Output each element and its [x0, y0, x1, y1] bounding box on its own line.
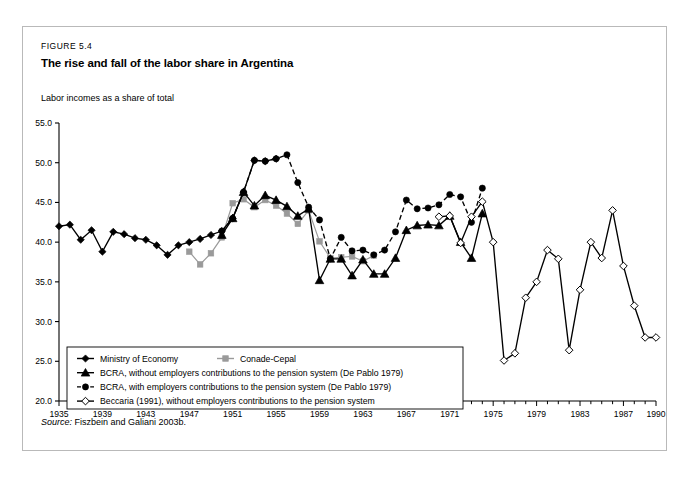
marker-circle-icon	[414, 206, 420, 212]
marker-triangle-icon	[348, 271, 357, 279]
marker-diamond-icon	[142, 236, 149, 243]
marker-diamond-icon	[110, 228, 117, 235]
marker-square-icon	[208, 250, 214, 256]
x-tick-label: 1975	[484, 409, 503, 419]
legend-item[interactable]: BCRA, without employers contributions to…	[77, 368, 403, 378]
series-1	[55, 155, 279, 258]
x-tick-label: 1971	[440, 409, 459, 419]
marker-square-icon	[284, 211, 290, 217]
legend-item[interactable]: BCRA, with employers contributions to th…	[77, 382, 391, 392]
marker-diamond-icon	[186, 239, 193, 246]
legend-label: Ministry of Economy	[100, 354, 179, 364]
marker-diamond-icon	[207, 231, 214, 238]
marker-circle-icon	[479, 185, 485, 191]
marker-diamond-open-icon	[565, 346, 573, 354]
legend-label: Conade-Cepal	[240, 354, 296, 364]
figure-frame: FIGURE 5.4 The rise and fall of the labo…	[22, 26, 667, 451]
series-5	[435, 198, 660, 364]
marker-diamond-open-icon	[609, 207, 617, 215]
chart-plot-area: 20.025.030.035.040.045.050.055.019351939…	[23, 27, 668, 452]
marker-circle-icon	[447, 191, 453, 197]
marker-diamond-icon	[131, 235, 138, 242]
marker-square-icon	[197, 262, 203, 268]
marker-diamond-icon	[197, 235, 204, 242]
marker-square-icon	[230, 200, 236, 206]
marker-circle-icon	[262, 158, 268, 164]
marker-diamond-icon	[99, 248, 106, 255]
x-tick-label: 1967	[397, 409, 416, 419]
marker-diamond-open-icon	[511, 350, 519, 358]
marker-circle-icon	[360, 247, 366, 253]
marker-circle-icon	[82, 384, 88, 390]
marker-diamond-icon	[121, 231, 128, 238]
x-tick-label: 1935	[49, 409, 68, 419]
x-tick-label: 1983	[570, 409, 589, 419]
x-tick-label: 1963	[353, 409, 372, 419]
marker-circle-icon	[458, 194, 464, 200]
marker-square-icon	[349, 254, 355, 260]
marker-square-icon	[186, 249, 192, 255]
line-chart: 20.025.030.035.040.045.050.055.019351939…	[23, 27, 668, 452]
x-tick-label: 1990	[646, 409, 665, 419]
marker-circle-icon	[436, 202, 442, 208]
marker-diamond-open-icon	[630, 302, 638, 310]
series-line	[222, 155, 483, 259]
x-tick-label: 1951	[223, 409, 242, 419]
series-line	[59, 159, 276, 255]
series-4	[219, 152, 486, 262]
marker-diamond-open-icon	[522, 294, 530, 302]
marker-circle-icon	[230, 215, 236, 221]
marker-triangle-icon	[391, 254, 400, 262]
series-3	[218, 188, 487, 284]
marker-circle-icon	[284, 152, 290, 158]
marker-triangle-icon	[315, 276, 324, 284]
marker-diamond-open-icon	[576, 286, 584, 294]
marker-square-icon	[317, 239, 323, 245]
marker-triangle-icon	[467, 254, 476, 262]
y-tick-label: 20.0	[35, 396, 52, 406]
marker-triangle-icon	[402, 226, 411, 234]
y-tick-label: 45.0	[35, 197, 52, 207]
marker-square-icon	[223, 356, 229, 362]
legend-item[interactable]: Beccaria (1991), without employers contr…	[77, 396, 375, 406]
marker-diamond-open-icon	[620, 262, 628, 270]
marker-circle-icon	[273, 156, 279, 162]
y-tick-label: 50.0	[35, 158, 52, 168]
marker-circle-icon	[295, 179, 301, 185]
x-tick-label: 1979	[527, 409, 546, 419]
x-tick-label: 1943	[136, 409, 155, 419]
y-tick-label: 35.0	[35, 277, 52, 287]
marker-diamond-open-icon	[533, 278, 541, 286]
marker-diamond-open-icon	[598, 254, 606, 262]
series-2	[186, 196, 376, 267]
legend-label: BCRA, without employers contributions to…	[100, 368, 403, 378]
y-tick-label: 55.0	[35, 118, 52, 128]
legend-label: BCRA, with employers contributions to th…	[100, 382, 391, 392]
legend-label: Beccaria (1991), without employers contr…	[100, 396, 375, 406]
chart-legend: Ministry of EconomyConade-CepalBCRA, wit…	[67, 347, 463, 409]
marker-circle-icon	[425, 205, 431, 211]
y-tick-label: 25.0	[35, 356, 52, 366]
x-tick-label: 1955	[267, 409, 286, 419]
marker-circle-icon	[327, 256, 333, 262]
x-tick-label: 1987	[614, 409, 633, 419]
marker-triangle-icon	[261, 191, 270, 199]
marker-triangle-icon	[272, 196, 281, 204]
x-tick-label: 1959	[310, 409, 329, 419]
marker-diamond-open-icon	[641, 334, 649, 342]
marker-square-icon	[295, 221, 301, 227]
marker-circle-icon	[392, 229, 398, 235]
series-line	[222, 192, 483, 280]
marker-diamond-icon	[55, 223, 62, 230]
y-tick-label: 40.0	[35, 237, 52, 247]
marker-circle-icon	[338, 234, 344, 240]
marker-circle-icon	[306, 204, 312, 210]
marker-diamond-open-icon	[652, 334, 660, 342]
x-tick-label: 1939	[93, 409, 112, 419]
x-tick-label: 1947	[180, 409, 199, 419]
marker-diamond-open-icon	[435, 213, 443, 221]
marker-circle-icon	[316, 217, 322, 223]
marker-circle-icon	[251, 157, 257, 163]
marker-diamond-open-icon	[500, 357, 508, 365]
series-line	[189, 199, 374, 264]
